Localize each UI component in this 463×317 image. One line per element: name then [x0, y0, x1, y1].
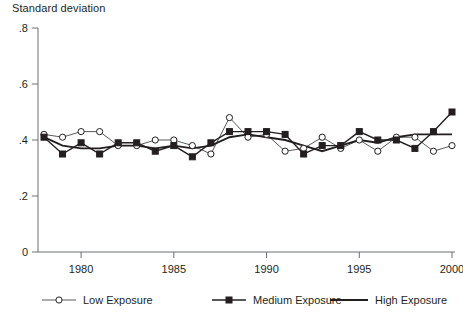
- legend-label: Low Exposure: [83, 294, 153, 306]
- x-tick-label: 1985: [162, 263, 186, 275]
- data-point-marker: [171, 143, 177, 149]
- data-point-marker: [356, 137, 362, 143]
- x-tick-label: 2000: [440, 263, 463, 275]
- x-tick-label: 1980: [69, 263, 93, 275]
- data-point-marker: [152, 137, 158, 143]
- y-tick-label: .2: [19, 190, 28, 202]
- data-series-group: [41, 109, 455, 160]
- data-point-marker: [60, 151, 66, 157]
- legend-label: High Exposure: [375, 294, 447, 306]
- y-tick-label: 0: [22, 246, 28, 258]
- data-point-marker: [41, 134, 47, 140]
- data-point-marker: [264, 129, 270, 135]
- y-tick-label: .8: [19, 22, 28, 34]
- legend-open-circle-icon: [56, 297, 62, 303]
- data-point-marker: [375, 148, 381, 154]
- data-point-marker: [282, 148, 288, 154]
- legend-filled-square-icon: [226, 297, 232, 303]
- data-point-marker: [449, 109, 455, 115]
- y-tick-label: .6: [19, 78, 28, 90]
- data-point-marker: [226, 115, 232, 121]
- data-point-marker: [59, 134, 65, 140]
- data-point-marker: [338, 143, 344, 149]
- data-point-marker: [301, 151, 307, 157]
- data-point-marker: [97, 151, 103, 157]
- data-point-marker: [245, 129, 251, 135]
- data-point-marker: [78, 129, 84, 135]
- data-point-marker: [226, 129, 232, 135]
- y-tick-label: .4: [19, 134, 28, 146]
- data-point-marker: [115, 140, 121, 146]
- line-chart-plot: 0.2.4.6.8 19801985199019952000 Low Expos…: [0, 0, 463, 317]
- data-point-marker: [189, 154, 195, 160]
- data-point-marker: [189, 143, 195, 149]
- data-point-marker: [449, 143, 455, 149]
- data-point-marker: [412, 134, 418, 140]
- data-point-marker: [208, 140, 214, 146]
- legend-label: Medium Exposure: [253, 294, 342, 306]
- data-point-marker: [208, 151, 214, 157]
- data-point-marker: [375, 137, 381, 143]
- data-point-marker: [152, 148, 158, 154]
- data-point-marker: [356, 129, 362, 135]
- data-point-marker: [282, 131, 288, 137]
- x-tick-labels: 19801985199019952000: [69, 263, 463, 275]
- legend-item-medium-exposure[interactable]: Medium Exposure: [212, 294, 342, 306]
- data-point-marker: [319, 134, 325, 140]
- x-tick-label: 1995: [347, 263, 371, 275]
- axes-group: [32, 28, 455, 258]
- data-point-marker: [430, 148, 436, 154]
- data-point-marker: [319, 143, 325, 149]
- data-point-marker: [78, 140, 84, 146]
- chart-legend: Low ExposureMedium ExposureHigh Exposure: [42, 294, 447, 306]
- data-point-marker: [430, 129, 436, 135]
- data-point-marker: [412, 145, 418, 151]
- data-point-marker: [134, 140, 140, 146]
- y-tick-labels: 0.2.4.6.8: [19, 22, 28, 258]
- legend-item-low-exposure[interactable]: Low Exposure: [42, 294, 153, 306]
- x-tick-label: 1990: [254, 263, 278, 275]
- chart-container: Standard deviation 0.2.4.6.8 19801985199…: [0, 0, 463, 317]
- legend-item-high-exposure[interactable]: High Exposure: [330, 294, 447, 306]
- data-point-marker: [97, 129, 103, 135]
- data-point-marker: [393, 137, 399, 143]
